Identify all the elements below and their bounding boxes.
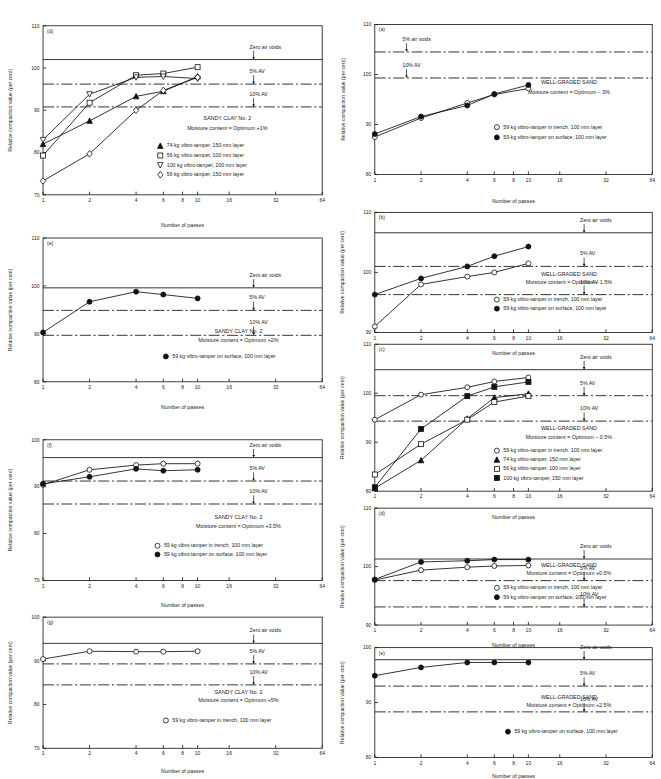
data-point [492,660,497,665]
y-axis-label: Relative compaction value (per cent) [8,69,14,152]
y-axis-ticks [43,238,46,382]
ref-line-annotation: 10% AV [250,319,269,325]
legend-label: 56 kg vibro-tamper, 150 mm layer [167,171,245,177]
x-tick-label: 4 [466,493,469,499]
x-tick-label: 6 [493,627,496,633]
y-tick-label: 110 [363,341,371,347]
plot-frame [43,26,322,195]
data-point [372,472,377,477]
x-tick-label: 10 [195,750,201,756]
x-tick-label: 1 [373,493,376,499]
data-point [492,557,497,562]
data-point [419,114,424,119]
data-point [87,100,92,105]
y-axis-label: Relative compaction value (per cent) [340,661,346,744]
x-tick-label: 2 [420,493,423,499]
panel-label: (a) [379,26,385,32]
panel-label: (b) [379,214,385,220]
legend-marker [158,172,163,179]
chart-panel-right-e: 12468101632648090100Number of passesRela… [338,640,658,779]
ref-line-annotation: Zero air voids [580,217,612,223]
data-point [161,292,166,297]
legend-marker [494,297,499,302]
y-tick-label: 70 [34,745,40,751]
legend [505,729,510,734]
ref-line-annotation: 5% AV [580,380,596,386]
legend-label: 59 kg vibro-tamper on surface, 100 mm la… [503,134,606,140]
data-point [195,65,200,70]
ref-line-annotation: 10% AV [250,91,269,97]
y-axis-ticks [375,24,378,174]
legend-marker [494,585,499,590]
x-axis-ticks [375,488,652,491]
data-point [372,324,377,329]
series-0 [41,461,201,487]
x-tick-label: 16 [226,750,232,756]
legend-label: 59 kg vibro-tamper in trench, 100 mm lay… [164,542,263,548]
data-point [87,299,92,304]
data-point [492,91,497,96]
x-tick-label: 8 [181,750,184,756]
y-tick-label: 90 [366,121,372,127]
x-tick-label: 10 [195,197,201,203]
x-tick-label: 10 [195,384,201,390]
x-axis-ticks [43,577,322,580]
y-axis-label: Relative compaction value (per cent) [340,525,346,608]
panel-title: WELL-GRADED SAND [541,79,597,85]
x-tick-label: 6 [162,583,165,589]
x-tick-label: 32 [603,760,609,766]
data-point [161,461,166,466]
chart-panel-right-d: 124681016326490100110Number of passesRel… [338,500,658,648]
legend-marker [494,457,500,462]
x-axis-label: Number of passes [161,768,204,774]
legend [163,718,168,723]
y-tick-label: 100 [31,65,40,71]
x-tick-label: 6 [493,760,496,766]
data-point [465,660,470,665]
data-point [372,485,377,490]
data-point [492,270,497,275]
panel-label: (c) [379,346,385,352]
series-0 [372,660,531,678]
data-point [526,660,531,665]
chart-panel-right-c: 12468101632648090100110Number of passesR… [338,334,658,520]
panel-subtitle: Moisture content = Optimum +2.5% [527,702,612,708]
legend-label: 56 kg vibro-tamper, 100 mm layer [167,152,245,158]
x-tick-label: 6 [493,493,496,499]
legend-label: 74 kg vibro-tamper, 150 mm layer [503,456,581,462]
chart-panel-left-d: 1246810163264708090100110Number of passe… [6,14,328,228]
x-tick-label: 64 [319,583,325,589]
x-tick-label: 8 [512,177,515,183]
ref-line-annotation: Zero air voids [580,644,612,650]
data-point [492,379,497,384]
y-axis-label: Relative compaction value (per cent) [8,468,14,551]
x-tick-label: 1 [373,177,376,183]
legend-label: 59 kg vibro-tamper on surface, 100 mm la… [503,594,606,600]
x-tick-label: 1 [373,627,376,633]
reference-lines [43,643,322,685]
ref-line-annotation: Zero air voids [580,543,612,549]
ref-line-annotation: 5% AV [250,648,266,654]
data-point [465,394,470,399]
ref-line-annotation: 5% AV [580,250,596,256]
y-tick-label: 80 [366,171,372,177]
x-tick-label: 16 [557,760,563,766]
data-point [465,385,470,390]
panel-title: SANDY CLAY No. 2 [214,328,262,334]
x-axis-label: Number of passes [492,198,535,204]
series-1 [372,244,531,297]
data-point [134,466,139,471]
x-tick-label: 1 [42,750,45,756]
y-tick-label: 80 [366,754,372,760]
data-point [195,296,200,301]
x-axis-label: Number of passes [161,222,204,228]
y-axis-label: Relative compaction value (per cent) [8,268,14,351]
x-tick-label: 10 [526,760,532,766]
data-point [465,417,470,422]
data-point [41,153,46,158]
data-point [419,276,424,281]
ref-line-annotation: 10% AV [580,405,599,411]
reference-line-annotations [252,635,255,685]
y-axis-ticks [43,440,46,581]
y-tick-label: 80 [366,488,372,494]
